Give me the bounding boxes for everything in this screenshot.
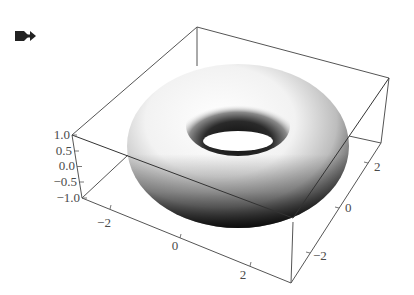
svg-text:0: 0 — [345, 200, 352, 215]
svg-text:−1.0: −1.0 — [56, 190, 80, 205]
svg-text:0.0: 0.0 — [59, 158, 75, 173]
svg-text:2: 2 — [374, 159, 381, 174]
svg-text:2: 2 — [240, 267, 247, 282]
svg-text:−0.5: −0.5 — [53, 174, 77, 189]
torus-surface — [127, 64, 349, 228]
svg-text:0: 0 — [172, 238, 179, 253]
svg-text:−2: −2 — [313, 248, 327, 263]
svg-text:1.0: 1.0 — [54, 127, 70, 142]
plot-output: 1.0 0.5 0.0 −0.5 −1.0 −2 0 2 2 0 −2 — [0, 0, 414, 295]
svg-text:0.5: 0.5 — [56, 143, 72, 158]
z-axis-labels: 1.0 0.5 0.0 −0.5 −1.0 — [53, 127, 80, 205]
svg-text:−2: −2 — [97, 215, 111, 230]
torus-3d-plot[interactable]: 1.0 0.5 0.0 −0.5 −1.0 −2 0 2 2 0 −2 — [0, 0, 414, 295]
